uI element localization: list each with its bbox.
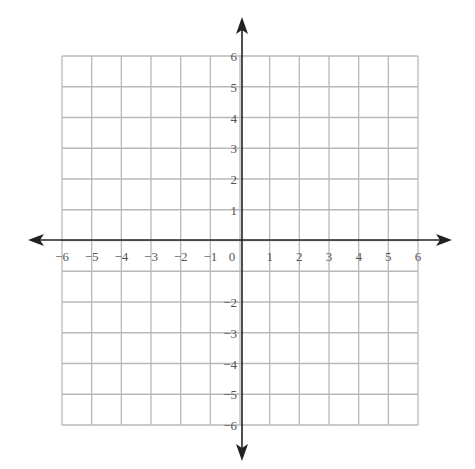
x-tick-label: −2 xyxy=(174,249,188,264)
x-tick-label: 3 xyxy=(326,249,333,264)
x-tick-label: 2 xyxy=(296,249,303,264)
x-tick-label: −3 xyxy=(144,249,158,264)
x-tick-label: 5 xyxy=(385,249,392,264)
y-tick-label: 5 xyxy=(231,80,238,95)
x-tick-label: −5 xyxy=(85,249,99,264)
x-tick-label: 1 xyxy=(266,249,273,264)
coordinate-plane: −6−5−4−3−2−10123456654321−2−3−4−5−6 xyxy=(0,0,475,469)
y-tick-label: −3 xyxy=(223,326,237,341)
x-tick-label: −4 xyxy=(114,249,128,264)
x-tick-label: −6 xyxy=(55,249,69,264)
y-tick-label: −2 xyxy=(223,295,237,310)
y-tick-label: 2 xyxy=(231,172,238,187)
y-tick-label: 3 xyxy=(231,141,238,156)
x-tick-label: 0 xyxy=(229,249,236,264)
x-tick-label: −1 xyxy=(203,249,217,264)
y-tick-label: 6 xyxy=(231,49,238,64)
y-tick-label: 1 xyxy=(231,203,238,218)
x-tick-label: 4 xyxy=(355,249,362,264)
x-tick-label: 6 xyxy=(415,249,422,264)
y-tick-label: −4 xyxy=(223,357,237,372)
y-tick-label: 4 xyxy=(231,111,238,126)
y-tick-label: −5 xyxy=(223,387,237,402)
y-tick-label: −6 xyxy=(223,418,237,433)
